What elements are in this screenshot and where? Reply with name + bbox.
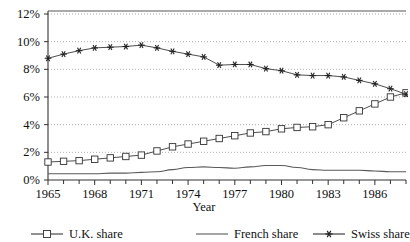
y-tick-label: 8% [0,63,40,76]
data-point-marker [45,159,51,165]
legend-label: U.K. share [69,227,123,242]
y-tick-label: 10% [0,36,40,49]
data-point-marker [356,78,363,84]
data-point-marker [107,155,113,161]
data-point-marker [372,101,378,107]
y-tick-label: 6% [0,91,40,104]
data-point-marker [278,68,285,74]
x-tick-label: 1983 [305,188,351,201]
data-point-marker [154,148,160,154]
data-point-marker [60,158,66,164]
data-point-marker [154,45,161,51]
chart-canvas [0,5,408,185]
data-point-marker [231,62,238,68]
data-point-marker [107,44,114,50]
legend-marker-star-icon [312,227,346,241]
data-point-marker [263,128,269,134]
data-point-marker [185,141,191,147]
data-point-marker [185,51,192,57]
data-point-marker [372,81,379,87]
data-point-marker [169,48,176,54]
legend-label: French share [234,227,298,242]
data-point-marker [91,156,97,162]
data-point-marker [200,54,207,60]
data-point-marker [325,73,332,79]
data-point-marker [200,138,206,144]
x-tick-label: 1974 [165,188,211,201]
data-point-marker [341,115,347,121]
data-point-marker [138,152,144,158]
x-tick-label: 1977 [212,188,258,201]
data-point-marker [278,126,284,132]
data-point-marker [356,108,362,114]
y-tick-label: 0% [0,174,40,187]
x-tick-label: 1968 [72,188,118,201]
x-tick-label: 1986 [352,188,398,201]
data-point-marker [247,62,254,68]
legend-item-3[interactable]: Swiss share [312,226,410,242]
data-point-marker [169,144,175,150]
legend-item-1[interactable]: U.K. share [30,226,123,242]
chart-legend: U.K. shareFrench shareSwiss share [0,226,408,242]
data-point-marker [294,72,301,78]
x-tick-label: 1971 [118,188,164,201]
series-line-1 [48,93,406,162]
series-line-2 [48,165,406,173]
data-point-marker [216,135,222,141]
y-tick-label: 12% [0,8,40,21]
y-tick-label: 4% [0,119,40,132]
data-point-marker [340,74,347,80]
data-point-marker [232,133,238,139]
data-point-marker [123,44,130,50]
data-point-marker [60,51,67,57]
data-point-marker [138,42,145,48]
x-tick-label: 1965 [25,188,71,201]
legend-marker-none-icon [195,227,229,241]
y-tick-label: 2% [0,146,40,159]
series-line-3 [48,45,406,94]
data-point-marker [309,124,315,130]
x-axis-title: Year [0,200,408,215]
data-point-marker [216,62,223,68]
data-point-marker [263,66,270,72]
plot-area [0,5,408,185]
legend-marker-square-icon [30,227,64,241]
data-point-marker [247,130,253,136]
data-point-marker [309,73,316,79]
data-point-marker [387,94,393,100]
x-tick-label: 1980 [258,188,304,201]
data-point-marker [76,157,82,163]
data-point-marker [387,86,394,92]
data-point-marker [294,124,300,130]
legend-label: Swiss share [351,227,410,242]
data-point-marker [325,121,331,127]
data-point-marker [91,45,98,51]
data-point-marker [123,153,129,159]
legend-item-2[interactable]: French share [195,226,298,242]
data-point-marker [76,48,83,54]
